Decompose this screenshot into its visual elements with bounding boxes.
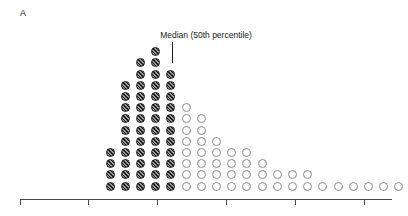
axis-tick-3 [226, 199, 227, 205]
axis-tick-4 [295, 199, 296, 205]
axis-tick-2 [157, 199, 158, 205]
axis-tick-5 [364, 199, 365, 205]
axis-tick-1 [88, 199, 89, 205]
x-axis [0, 0, 408, 216]
x-axis-line [20, 199, 392, 200]
axis-tick-0 [20, 199, 21, 205]
figure-panel: A Median (50th percentile) [0, 0, 408, 216]
